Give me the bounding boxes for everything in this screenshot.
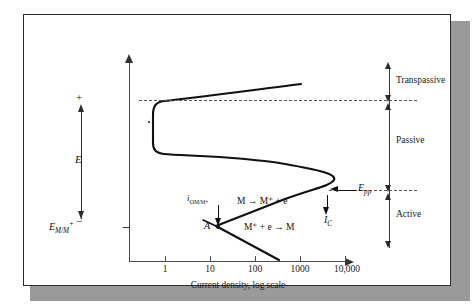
anodic-reaction-label: M → M⁺ + e [237, 195, 287, 206]
region-label-active: Active [396, 209, 421, 219]
epp-subscript: pp [364, 188, 371, 196]
passive-up-arrow-icon [385, 103, 391, 110]
polarization-curve-plot: 1 10 100 1000 10,000 Current density, lo… [24, 15, 450, 285]
region-label-passive: Passive [396, 135, 425, 145]
point-a-label: A [204, 220, 210, 231]
x-tick-mark [300, 256, 301, 262]
exchange-current-pointer-line [218, 205, 219, 219]
exchange-current-sub-mm: M/M [194, 199, 205, 205]
ic-subscript: C [327, 220, 332, 228]
potential-plus-label: + [76, 91, 82, 103]
exchange-current-density-label: iOM/M+ [187, 193, 208, 205]
figure-frame: 1 10 100 1000 10,000 Current density, lo… [23, 14, 451, 286]
critical-current-label: IC [324, 214, 332, 228]
equilibrium-potential-superscript: + [69, 220, 74, 228]
potential-axis-label: E [75, 153, 82, 165]
x-tick-label-10: 10 [205, 264, 215, 274]
critical-current-arrow-icon [323, 207, 329, 215]
cathodic-reaction-label: M⁺ + e → M [244, 221, 294, 232]
exchange-current-sub-plus: + [205, 199, 208, 205]
exchange-current-arrow-icon [215, 218, 221, 226]
equilibrium-potential-subscript: M/M [55, 227, 69, 235]
potential-axis-up-arrow-icon [78, 104, 84, 112]
passive-down-arrow-icon [385, 185, 391, 192]
epp-pointer-line [337, 190, 356, 191]
transpassive-down-arrow-icon [385, 95, 391, 102]
transpassive-divider-line [139, 100, 417, 101]
y-axis-line [129, 62, 130, 262]
x-tick-label-10000: 10,000 [334, 264, 360, 274]
potential-minus-label: − [76, 215, 82, 227]
x-tick-label-1000: 1000 [291, 264, 310, 274]
x-tick-label-1: 1 [163, 264, 168, 274]
x-tick-mark [210, 256, 211, 262]
active-down-arrow-icon [385, 241, 391, 248]
potential-axis-line [81, 111, 82, 219]
epp-label: Epp [358, 182, 371, 196]
y-axis-arrow-icon [125, 54, 133, 63]
active-up-arrow-icon [385, 193, 391, 200]
transpassive-up-arrow-icon [385, 62, 391, 69]
region-label-transpassive: Transpassive [396, 75, 445, 85]
x-tick-mark [345, 256, 346, 262]
x-tick-mark [255, 256, 256, 262]
x-tick-label-100: 100 [248, 264, 262, 274]
x-axis-line [129, 261, 347, 262]
epp-arrow-icon [330, 186, 338, 192]
equilibrium-potential-label: EM/M+ [49, 220, 74, 235]
x-axis-title: Current density, log scale [129, 280, 347, 290]
equilibrium-potential-tick [123, 227, 130, 228]
x-tick-mark [165, 256, 166, 262]
stray-mark [148, 121, 150, 123]
